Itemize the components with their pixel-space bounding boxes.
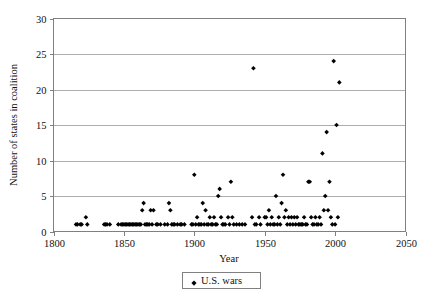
plot-area-border (54, 19, 406, 232)
data-point (309, 215, 314, 220)
data-point (192, 172, 197, 177)
data-point (278, 222, 283, 227)
data-point (257, 215, 262, 220)
data-point (229, 180, 234, 185)
data-point (227, 222, 232, 227)
data-point (251, 66, 256, 71)
data-point (329, 215, 334, 220)
data-point (284, 208, 289, 213)
data-point (302, 215, 307, 220)
y-tick-label: 0 (41, 227, 46, 238)
x-axis-tick-labels: 180018501900195020002050 (44, 238, 417, 249)
data-point (269, 215, 274, 220)
y-axis-tick-labels: 051015202530 (36, 14, 47, 238)
data-point (267, 208, 272, 213)
x-tick-label: 1900 (184, 238, 205, 249)
x-tick-label: 1800 (44, 238, 65, 249)
data-point (323, 194, 328, 199)
data-point (217, 187, 222, 192)
data-point (327, 180, 332, 185)
x-axis-title: Year (219, 253, 239, 264)
data-point (216, 194, 221, 199)
y-tick-label: 30 (36, 14, 47, 25)
data-point (282, 215, 287, 220)
y-tick-label: 20 (36, 85, 47, 96)
data-point (276, 215, 281, 220)
data-point (319, 222, 324, 227)
legend-label: U.S. wars (201, 275, 242, 286)
data-point (334, 123, 339, 128)
axis-ticks-group (50, 20, 407, 236)
data-point (182, 222, 187, 227)
data-point (326, 208, 331, 213)
data-point (150, 222, 155, 227)
y-tick-label: 10 (36, 156, 47, 167)
x-tick-label: 2050 (396, 238, 417, 249)
data-point (195, 215, 200, 220)
data-point (85, 222, 90, 227)
data-point (207, 215, 212, 220)
data-point (313, 215, 318, 220)
scatter-chart-figure: 180018501900195020002050 051015202530 Ye… (0, 0, 429, 306)
y-tick-label: 15 (36, 120, 47, 131)
data-point (324, 130, 329, 135)
data-point (243, 222, 248, 227)
x-tick-label: 1850 (114, 238, 135, 249)
data-point (317, 215, 322, 220)
data-point (230, 215, 235, 220)
data-point (333, 222, 338, 227)
gridlines-group (54, 55, 406, 197)
data-point (226, 215, 231, 220)
data-point (141, 201, 146, 206)
data-point (151, 208, 156, 213)
data-point (336, 215, 341, 220)
chart-canvas: 180018501900195020002050 051015202530 Ye… (0, 0, 429, 306)
data-point (281, 172, 286, 177)
data-point (295, 215, 300, 220)
data-point (200, 201, 205, 206)
x-tick-label: 1950 (255, 238, 276, 249)
y-tick-label: 25 (36, 49, 47, 60)
data-point (337, 80, 342, 85)
data-point (320, 151, 325, 156)
y-axis-title: Number of states in coalition (8, 63, 19, 186)
x-tick-label: 2000 (325, 238, 346, 249)
data-point (167, 201, 172, 206)
data-point (158, 222, 163, 227)
chart-legend: U.S. wars (183, 273, 261, 289)
data-point (279, 201, 284, 206)
data-point (331, 59, 336, 64)
data-point (212, 215, 217, 220)
y-tick-label: 5 (41, 191, 46, 202)
data-point (203, 208, 208, 213)
data-point (140, 208, 145, 213)
data-point (250, 215, 255, 220)
data-points-group (74, 59, 342, 227)
data-point (165, 222, 170, 227)
data-point (274, 194, 279, 199)
data-point (84, 215, 89, 220)
data-point (322, 208, 327, 213)
figure-caption (62, 300, 372, 306)
data-point (219, 215, 224, 220)
data-point (108, 222, 113, 227)
data-point (258, 222, 263, 227)
data-point (168, 208, 173, 213)
